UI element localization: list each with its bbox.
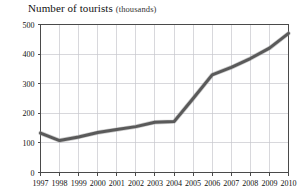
x-tick-label: 2010 [281, 179, 297, 188]
x-tick-label: 2001 [109, 179, 125, 188]
x-tick-label: 2006 [204, 179, 220, 188]
x-tick-label: 1997 [33, 179, 49, 188]
x-tick-label: 2007 [223, 179, 239, 188]
x-tick-label: 1999 [71, 179, 87, 188]
horizontal-gridlines [41, 54, 289, 143]
y-axis-labels: 0100200300400500 [23, 21, 35, 178]
x-tick-label: 2008 [242, 179, 258, 188]
y-tick-label: 400 [23, 50, 35, 59]
vertical-gridlines [60, 25, 270, 173]
tourists-line-chart: Number of tourists (thousands) 010020030… [0, 0, 300, 195]
x-tick-label: 2002 [128, 179, 144, 188]
y-tick-label: 300 [23, 80, 35, 89]
y-tick-label: 500 [23, 21, 35, 30]
y-tick-label: 0 [31, 169, 35, 178]
x-axis-labels: 1997199819992000200120022003200420052006… [33, 179, 297, 188]
series-line-halo [41, 33, 289, 140]
y-tick-label: 200 [23, 109, 35, 118]
series-line-tourists [41, 33, 289, 140]
x-tick-label: 2003 [147, 179, 163, 188]
chart-plot-area: 0100200300400500 19971998199920002001200… [0, 0, 300, 195]
x-tick-label: 2009 [261, 179, 277, 188]
x-tick-label: 2004 [166, 179, 182, 188]
x-tick-label: 1998 [52, 179, 68, 188]
x-tick-label: 2000 [90, 179, 106, 188]
y-tick-label: 100 [23, 139, 35, 148]
x-tick-label: 2005 [185, 179, 201, 188]
